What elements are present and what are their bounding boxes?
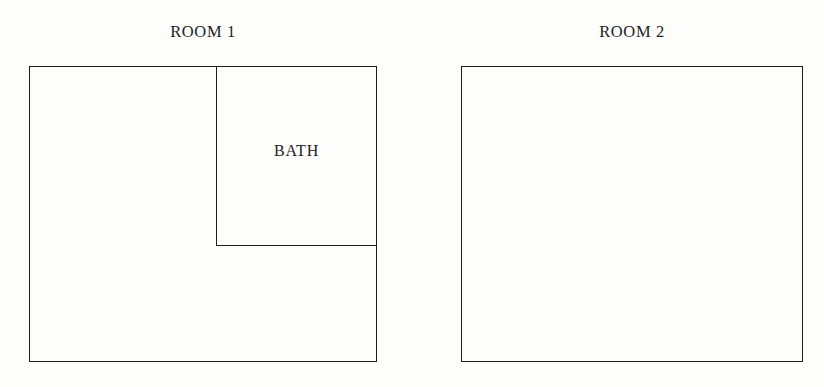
bath-label: BATH [216,142,377,160]
room-2-outline [462,67,803,362]
room-1-outline [30,67,377,362]
floor-plan-figure: ROOM 1 ROOM 2 BATH [0,0,824,387]
room-1-label: ROOM 1 [29,22,377,42]
room-2-label: ROOM 2 [461,22,803,42]
floor-plan-drawing [0,0,824,387]
